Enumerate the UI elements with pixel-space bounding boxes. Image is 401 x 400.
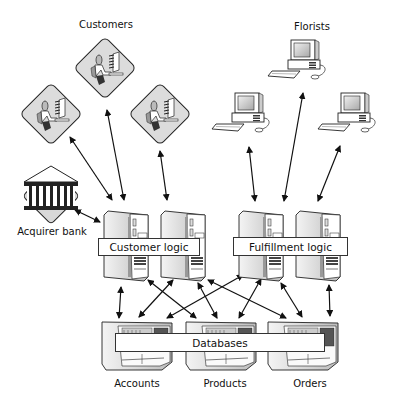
florists-label: Florists bbox=[284, 21, 340, 32]
orders-label: Orders bbox=[284, 378, 336, 389]
connection-arrows bbox=[70, 93, 340, 318]
customer-logic-label: Customer logic bbox=[98, 238, 200, 256]
customer-icon-right bbox=[129, 83, 191, 145]
florist-computer-left bbox=[212, 93, 269, 132]
customer-icon-left bbox=[20, 83, 82, 145]
florist-computer-right bbox=[318, 93, 375, 132]
bank-icon bbox=[23, 166, 80, 224]
florist-computer-top bbox=[268, 40, 325, 79]
accounts-label: Accounts bbox=[108, 378, 166, 389]
products-label: Products bbox=[195, 378, 255, 389]
databases-label: Databases bbox=[115, 333, 325, 352]
fulfillment-logic-label: Fulfillment logic bbox=[233, 237, 348, 256]
acquirer-bank-label: Acquirer bank bbox=[14, 226, 90, 237]
customers-label: Customers bbox=[76, 19, 136, 30]
customer-icon-top bbox=[74, 37, 136, 99]
